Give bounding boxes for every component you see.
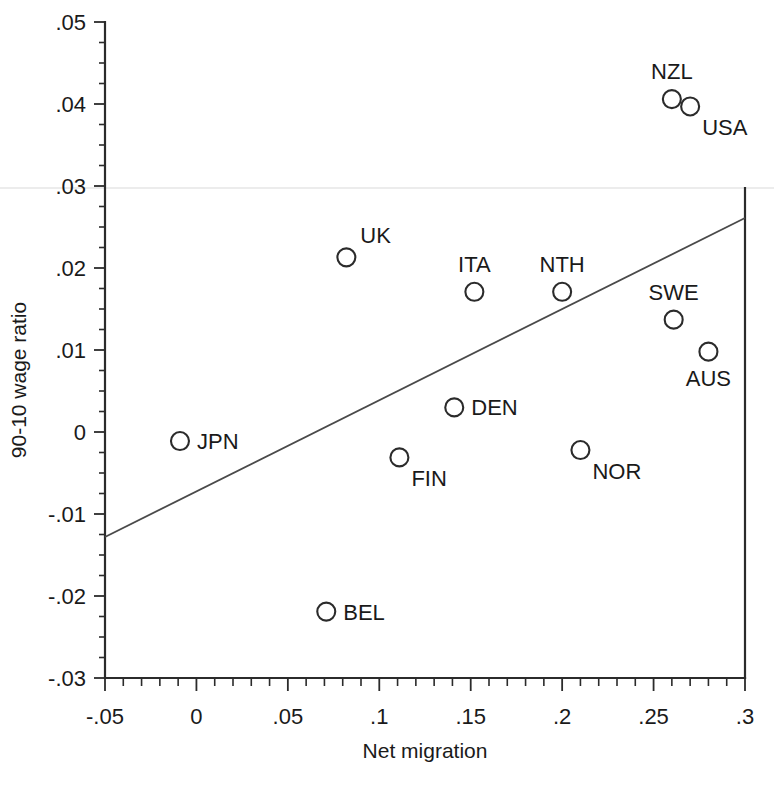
y-tick-label: .05	[55, 10, 86, 35]
x-tick-label: .15	[455, 704, 486, 729]
x-tick-label: .1	[370, 704, 388, 729]
y-tick-label: .04	[55, 92, 86, 117]
y-tick-label: -.02	[48, 584, 86, 609]
y-axis-title: 90-10 wage ratio	[7, 302, 30, 458]
chart-background	[0, 0, 774, 795]
y-tick-label: -.03	[48, 666, 86, 691]
x-tick-label: .25	[638, 704, 669, 729]
scatter-chart-figure: .05.04.03.02.010-.01-.02-.03 -.050.05.1.…	[0, 0, 774, 795]
point-label: AUS	[686, 366, 731, 391]
point-label: ITA	[458, 252, 491, 277]
point-label: BEL	[343, 600, 385, 625]
point-label: NTH	[540, 252, 585, 277]
point-label: USA	[702, 115, 748, 140]
x-tick-label: .2	[553, 704, 571, 729]
chart-canvas: .05.04.03.02.010-.01-.02-.03 -.050.05.1.…	[0, 0, 774, 795]
x-tick-label: .3	[736, 704, 754, 729]
point-label: NZL	[651, 59, 693, 84]
point-label: SWE	[649, 280, 699, 305]
point-label: FIN	[411, 466, 446, 491]
y-tick-label: .01	[55, 338, 86, 363]
x-axis-title: Net migration	[363, 739, 488, 762]
x-tick-label: .05	[273, 704, 304, 729]
y-tick-label: -.01	[48, 502, 86, 527]
y-tick-label: .02	[55, 256, 86, 281]
point-label: DEN	[471, 395, 517, 420]
point-label: JPN	[197, 429, 239, 454]
x-tick-label: 0	[190, 704, 202, 729]
point-label: NOR	[592, 459, 641, 484]
x-tick-label: -.05	[86, 704, 124, 729]
y-tick-label: .03	[55, 174, 86, 199]
y-tick-label: 0	[74, 420, 86, 445]
point-label: UK	[360, 223, 391, 248]
